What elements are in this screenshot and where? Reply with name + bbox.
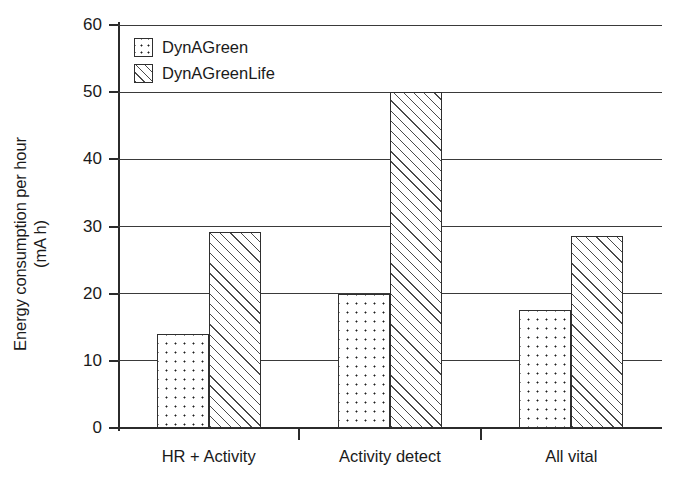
x-axis-group-tick xyxy=(480,429,482,440)
y-axis-tick xyxy=(109,360,118,362)
y-axis-tick xyxy=(109,226,118,228)
y-axis-title-line1: Energy consumption per hour xyxy=(11,137,29,351)
y-axis-title: Energy consumption per hour (mA h) xyxy=(0,0,60,488)
y-axis-tick-label: 0 xyxy=(56,419,102,436)
bar xyxy=(571,236,623,428)
bar-chart: Energy consumption per hour (mA h) 01020… xyxy=(0,0,682,488)
y-axis-tick-label: 30 xyxy=(56,218,102,235)
bar xyxy=(157,334,209,428)
y-axis-tick xyxy=(109,427,118,429)
legend-item: DynAGreenLife xyxy=(134,60,275,86)
y-axis-tick xyxy=(109,293,118,295)
x-axis-category-label: Activity detect xyxy=(299,446,480,466)
bar xyxy=(338,294,390,428)
y-axis-tick-label: 60 xyxy=(56,16,102,33)
bar xyxy=(519,310,571,428)
y-axis-tick-label: 20 xyxy=(56,285,102,302)
y-axis-tick-label: 50 xyxy=(56,83,102,100)
chart-legend: DynAGreenDynAGreenLife xyxy=(134,34,275,86)
legend-label: DynAGreenLife xyxy=(162,64,275,83)
bar xyxy=(209,232,261,428)
y-axis-tick-label: 40 xyxy=(56,150,102,167)
legend-label: DynAGreen xyxy=(162,38,248,57)
x-axis-category-label: HR + Activity xyxy=(118,446,299,466)
y-axis-tick xyxy=(109,24,118,26)
y-axis-title-line2: (mA h) xyxy=(30,137,50,351)
legend-swatch-hatched-icon xyxy=(134,64,153,83)
x-axis-category-label: All vital xyxy=(481,446,662,466)
bar xyxy=(390,92,442,428)
y-axis-tick-label: 10 xyxy=(56,352,102,369)
x-axis-group-tick xyxy=(298,429,300,440)
y-axis-tick xyxy=(109,158,118,160)
legend-item: DynAGreen xyxy=(134,34,275,60)
y-axis-tick xyxy=(109,91,118,93)
legend-swatch-dotted-icon xyxy=(134,38,153,57)
